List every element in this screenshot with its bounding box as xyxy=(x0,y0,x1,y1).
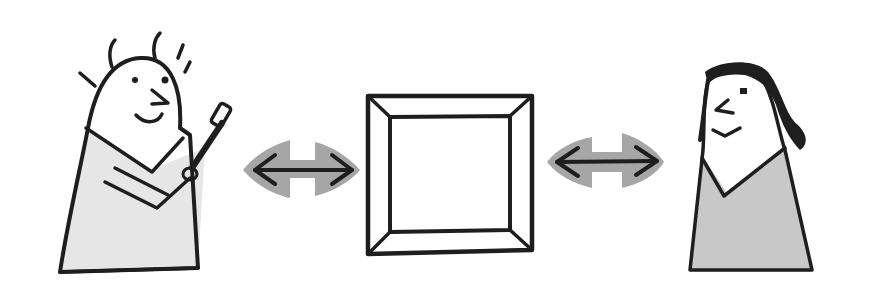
viewer-figure xyxy=(690,62,812,270)
artist-figure xyxy=(60,33,232,272)
right-eye xyxy=(162,77,169,84)
left-eye xyxy=(132,77,138,83)
empty-frame xyxy=(368,96,532,254)
left-double-arrow xyxy=(243,140,360,198)
viewer-eye xyxy=(740,88,747,94)
illustration-canvas xyxy=(0,0,869,299)
paintbrush-icon xyxy=(192,102,232,168)
right-double-arrow xyxy=(547,133,664,188)
